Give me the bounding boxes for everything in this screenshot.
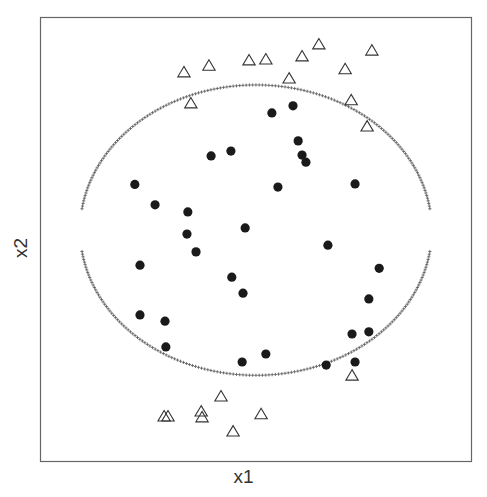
boundary-plus-marker [129, 127, 132, 130]
boundary-plus-marker [122, 324, 125, 327]
filled-circle-point [150, 200, 159, 209]
open-triangle-point [260, 54, 272, 64]
boundary-plus-marker [105, 152, 108, 155]
boundary-plus-marker [427, 255, 430, 258]
open-triangle-point [366, 45, 378, 55]
boundary-plus-marker [228, 372, 231, 375]
boundary-plus-marker [280, 372, 283, 375]
boundary-plus-marker [398, 145, 401, 148]
open-triangle-point [345, 94, 357, 104]
filled-circle-point [238, 357, 247, 366]
boundary-plus-marker [402, 307, 405, 310]
boundary-plus-marker [146, 114, 149, 117]
boundary-plus-marker [318, 93, 321, 96]
boundary-plus-marker [261, 83, 264, 86]
boundary-plus-marker [116, 139, 119, 142]
boundary-plus-marker [206, 368, 209, 371]
boundary-plus-marker [397, 314, 400, 317]
decision-boundary [80, 83, 431, 377]
filled-circle-point [241, 223, 250, 232]
filled-circle-point [161, 342, 170, 351]
filled-circle-point [273, 182, 282, 191]
boundary-plus-marker [375, 123, 378, 126]
boundary-plus-marker [102, 157, 105, 160]
boundary-plus-marker [375, 334, 378, 337]
boundary-plus-marker [107, 307, 110, 310]
boundary-plus-marker [274, 373, 277, 376]
boundary-plus-marker [318, 364, 321, 367]
boundary-plus-marker [264, 373, 267, 376]
data-points [130, 38, 384, 436]
boundary-plus-marker [203, 367, 206, 370]
boundary-plus-marker [407, 157, 410, 160]
boundary-plus-marker [129, 330, 132, 333]
open-triangle-point [346, 370, 358, 380]
boundary-plus-marker [347, 105, 350, 108]
boundary-plus-marker [378, 332, 381, 335]
open-triangle-point [178, 66, 190, 76]
boundary-plus-marker [173, 357, 176, 360]
boundary-plus-marker [306, 367, 309, 370]
boundary-plus-marker [138, 338, 141, 341]
filled-circle-point [364, 327, 373, 336]
boundary-plus-marker [344, 353, 347, 356]
boundary-plus-marker [393, 318, 396, 321]
filled-circle-point [322, 360, 331, 369]
boundary-plus-marker [299, 369, 302, 372]
boundary-plus-marker [238, 84, 241, 87]
boundary-plus-marker [219, 86, 222, 89]
boundary-plus-marker [127, 328, 130, 331]
open-triangle-point [215, 391, 227, 401]
boundary-plus-marker [232, 85, 235, 88]
boundary-plus-marker [100, 159, 103, 162]
filled-circle-point [301, 158, 310, 167]
boundary-plus-marker [380, 330, 383, 333]
boundary-plus-marker [182, 361, 185, 364]
filled-circle-point [183, 207, 192, 216]
boundary-plus-marker [162, 352, 165, 355]
boundary-plus-marker [312, 366, 315, 369]
boundary-plus-marker [302, 89, 305, 92]
boundary-plus-marker [382, 328, 385, 331]
boundary-plus-marker [81, 255, 84, 258]
filled-circle-point [350, 179, 359, 188]
boundary-plus-marker [251, 83, 254, 86]
boundary-plus-marker [338, 101, 341, 104]
boundary-plus-marker [162, 105, 165, 108]
boundary-plus-marker [271, 373, 274, 376]
boundary-plus-marker [102, 300, 105, 303]
boundary-plus-marker [398, 312, 401, 315]
boundary-plus-marker [133, 334, 136, 337]
boundary-plus-marker [393, 139, 396, 142]
boundary-plus-marker [143, 116, 146, 119]
boundary-plus-marker [287, 86, 290, 89]
filled-circle-point [130, 180, 139, 189]
boundary-plus-marker [141, 118, 144, 121]
open-triangle-point [196, 411, 208, 421]
boundary-plus-marker [358, 346, 361, 349]
boundary-plus-marker [82, 199, 85, 202]
filled-circle-point [238, 289, 247, 298]
boundary-plus-marker [333, 99, 336, 102]
boundary-plus-marker [368, 118, 371, 121]
boundary-plus-marker [264, 84, 267, 87]
boundary-plus-marker [122, 133, 125, 136]
boundary-plus-marker [315, 365, 318, 368]
boundary-plus-marker [185, 362, 188, 365]
boundary-plus-marker [167, 355, 170, 358]
boundary-plus-marker [216, 87, 219, 90]
boundary-plus-marker [406, 154, 409, 157]
boundary-plus-marker [402, 150, 405, 153]
boundary-plus-marker [404, 152, 407, 155]
boundary-plus-marker [182, 96, 185, 99]
boundary-plus-marker [267, 373, 270, 376]
boundary-plus-marker [110, 145, 113, 148]
boundary-plus-marker [363, 343, 366, 346]
boundary-plus-marker [382, 129, 385, 132]
boundary-plus-marker [409, 298, 412, 301]
boundary-plus-marker [191, 93, 194, 96]
boundary-plus-marker [306, 90, 309, 93]
boundary-plus-marker [395, 316, 398, 319]
boundary-plus-marker [197, 366, 200, 369]
filled-circle-point [226, 146, 235, 155]
